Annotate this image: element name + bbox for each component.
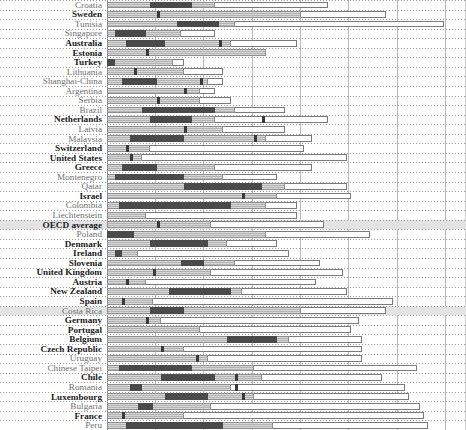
bar-group[interactable] — [107, 422, 466, 429]
category-label: Colombia — [66, 200, 102, 210]
bar-group[interactable] — [107, 374, 466, 381]
category-label: Czech Republic — [41, 344, 103, 354]
bar-hatch-texture — [108, 50, 265, 55]
bar-group[interactable] — [107, 2, 466, 9]
bar-group[interactable] — [107, 412, 466, 419]
category-label-row: Bulgaria — [0, 401, 107, 411]
bar-group[interactable] — [107, 260, 466, 267]
bar-dark-segment — [142, 107, 216, 114]
bar-row — [107, 411, 466, 421]
bar-group[interactable] — [107, 183, 466, 190]
bar-group[interactable] — [107, 202, 466, 209]
bar-group[interactable] — [107, 393, 466, 400]
bar-group[interactable] — [107, 30, 466, 37]
bar-group[interactable] — [107, 174, 466, 181]
bar-hatch-texture — [108, 356, 207, 361]
bar-dark-segment — [227, 336, 277, 343]
bar-hatch-texture — [108, 60, 172, 65]
bar-group[interactable] — [107, 298, 466, 305]
bar-group[interactable] — [107, 250, 466, 257]
category-label-row: Ireland — [0, 248, 107, 258]
bar-value-marker — [153, 269, 156, 276]
category-label: Brazil — [80, 105, 102, 115]
bar-value-marker — [157, 221, 160, 228]
category-label: Slovenia — [69, 258, 102, 268]
category-label-row: United States — [0, 153, 107, 163]
category-label-row: Chinese Taipei — [0, 363, 107, 373]
bar-group[interactable] — [107, 145, 466, 152]
bar-dark-segment — [122, 78, 157, 85]
bar-group[interactable] — [107, 317, 466, 324]
bar-group[interactable] — [107, 126, 466, 133]
bar-group[interactable] — [107, 68, 466, 75]
bar-group[interactable] — [107, 97, 466, 104]
bar-dark-segment — [150, 2, 193, 9]
bar-group[interactable] — [107, 384, 466, 391]
bar-row — [107, 48, 466, 58]
category-label-row: Montenegro — [0, 172, 107, 182]
bar-row — [107, 201, 466, 211]
bar-value-marker — [126, 279, 129, 286]
bar-group[interactable] — [107, 326, 466, 333]
category-label-row: New Zealand — [0, 287, 107, 297]
bar-value-marker — [196, 355, 199, 362]
category-label-row: Turkey — [0, 57, 107, 67]
bar-group[interactable] — [107, 107, 466, 114]
bar-row — [107, 105, 466, 115]
bar-hatch-texture — [108, 385, 230, 390]
bar-row — [107, 96, 466, 106]
category-label: Peru — [85, 420, 102, 430]
category-label: Austria — [72, 277, 102, 287]
bar-value-marker — [242, 193, 245, 200]
bar-value-marker — [157, 11, 160, 18]
bar-value-marker — [161, 346, 164, 353]
category-label-row: Uruguay — [0, 354, 107, 364]
bar-group[interactable] — [107, 403, 466, 410]
bar-fill-segment — [107, 403, 211, 410]
bar-group[interactable] — [107, 288, 466, 295]
bar-group[interactable] — [107, 135, 466, 142]
bar-group[interactable] — [107, 59, 466, 66]
bar-group[interactable] — [107, 21, 466, 28]
bar-group[interactable] — [107, 193, 466, 200]
bar-group[interactable] — [107, 154, 466, 161]
bar-row — [107, 67, 466, 77]
category-label: Latvia — [79, 124, 102, 134]
category-label-row: Latvia — [0, 124, 107, 134]
category-label-row: Shanghai-China — [0, 76, 107, 86]
bar-hatch-texture — [108, 155, 141, 160]
bar-group[interactable] — [107, 11, 466, 18]
bar-group[interactable] — [107, 269, 466, 276]
bar-group[interactable] — [107, 221, 466, 228]
bar-fill-segment — [107, 269, 211, 276]
bar-fill-segment — [107, 97, 200, 104]
bar-fill-segment — [107, 68, 184, 75]
bar-row — [107, 134, 466, 144]
category-label: United Kingdom — [36, 267, 102, 277]
bar-group[interactable] — [107, 231, 466, 238]
bar-group[interactable] — [107, 346, 466, 353]
bar-group[interactable] — [107, 307, 466, 314]
bar-dark-segment — [126, 40, 165, 47]
bar-group[interactable] — [107, 40, 466, 47]
bar-group[interactable] — [107, 164, 466, 171]
bar-group[interactable] — [107, 279, 466, 286]
bar-dark-segment — [115, 174, 185, 181]
bar-group[interactable] — [107, 365, 466, 372]
bar-group[interactable] — [107, 212, 466, 219]
bar-row — [107, 373, 466, 383]
bar-group[interactable] — [107, 88, 466, 95]
bar-fill-segment — [107, 126, 223, 133]
bar-value-marker — [184, 88, 187, 95]
bar-group[interactable] — [107, 116, 466, 123]
bar-row — [107, 354, 466, 364]
bar-group[interactable] — [107, 355, 466, 362]
bar-value-marker — [130, 154, 133, 161]
bar-group[interactable] — [107, 49, 466, 56]
bar-group[interactable] — [107, 78, 466, 85]
bar-group[interactable] — [107, 240, 466, 247]
bar-fill-segment — [107, 49, 266, 56]
bar-value-marker — [184, 126, 187, 133]
bar-group[interactable] — [107, 336, 466, 343]
bar-row — [107, 363, 466, 373]
